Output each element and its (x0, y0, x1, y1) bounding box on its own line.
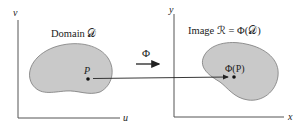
point-mapping-arrow (93, 77, 228, 79)
domain-region (30, 44, 113, 94)
point-phi-p-label: Φ(P) (225, 63, 245, 75)
image-title: Image ℛ = Φ(𝒟) (188, 25, 261, 37)
point-p (86, 77, 90, 81)
mapping-diagram: v u Domain 𝒟 P Φ y x Image ℛ = Φ(𝒟) Φ(P) (0, 0, 306, 128)
v-axis-label: v (13, 7, 18, 18)
y-axis-label: y (168, 4, 174, 15)
x-axis-label: x (287, 111, 293, 122)
domain-title: Domain 𝒟 (51, 28, 96, 39)
point-phi-p (232, 75, 236, 79)
u-axis-label: u (123, 112, 128, 123)
phi-map-label: Φ (142, 47, 150, 59)
diagram-canvas: v u Domain 𝒟 P Φ y x Image ℛ = Φ(𝒟) Φ(P) (0, 0, 306, 128)
point-p-label: P (83, 65, 90, 76)
